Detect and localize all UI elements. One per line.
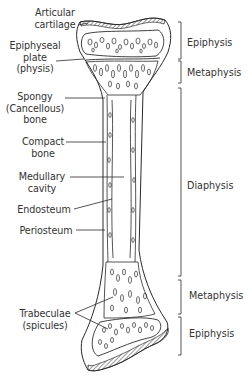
label-line: Compact: [18, 136, 68, 148]
label-line: bone: [2, 114, 68, 126]
label-line: Endosteum: [14, 204, 74, 216]
top-epiphysis-region: [81, 30, 163, 57]
region-label-metaphysis-bottom: Metaphysis: [189, 290, 243, 301]
bottom-epiphysis-region: [92, 318, 161, 356]
label-line: bone: [18, 148, 68, 160]
bracket-epiphysis-top: [178, 22, 181, 59]
label-line: Trabeculae: [15, 308, 75, 320]
label-medullary-cavity: Medullary cavity: [14, 171, 70, 194]
region-label-metaphysis-top: Metaphysis: [187, 67, 241, 78]
label-line: Epiphyseal: [6, 40, 64, 52]
bracket-epiphysis-bottom: [178, 317, 181, 355]
label-line: cavity: [14, 183, 70, 195]
label-line: (physis): [6, 63, 64, 75]
label-line: (Cancellous): [2, 103, 68, 115]
top-metaphysis-region: [86, 61, 158, 95]
label-periosteum: Periosteum: [16, 225, 76, 237]
region-label-epiphysis-bottom: Epiphysis: [189, 328, 234, 339]
bracket-metaphysis-top: [178, 61, 181, 83]
label-compact-bone: Compact bone: [18, 136, 68, 159]
region-brackets: [178, 22, 181, 355]
bracket-diaphysis: [178, 88, 181, 276]
label-line: Periosteum: [16, 225, 76, 237]
label-line: Medullary: [14, 171, 70, 183]
leader-endosteum: [74, 199, 112, 209]
label-trabeculae: Trabeculae (spicules): [15, 308, 75, 331]
label-line: plate: [6, 52, 64, 64]
region-label-epiphysis-top: Epiphysis: [187, 37, 232, 48]
label-line: cartilage: [26, 19, 84, 31]
label-line: Articular: [26, 7, 84, 19]
label-epiphyseal-plate: Epiphyseal plate (physis): [6, 40, 64, 75]
label-endosteum: Endosteum: [14, 204, 74, 216]
articular-cartilage-top: [80, 18, 165, 29]
bracket-metaphysis-bottom: [178, 280, 181, 314]
label-articular-cartilage: Articular cartilage: [26, 7, 84, 30]
bottom-metaphysis-region: [104, 262, 155, 318]
region-label-diaphysis: Diaphysis: [187, 180, 233, 191]
label-line: Spongy: [2, 91, 68, 103]
epiphyseal-plate-top: [86, 58, 160, 60]
label-spongy-bone: Spongy (Cancellous) bone: [2, 91, 68, 126]
label-line: (spicules): [15, 320, 75, 332]
